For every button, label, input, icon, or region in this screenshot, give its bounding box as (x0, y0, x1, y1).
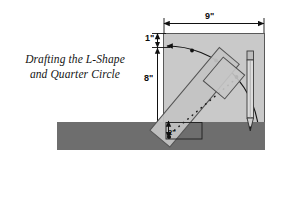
dimension-label-width: 9" (205, 11, 214, 21)
dimension-label-top-offset: 1" (145, 33, 154, 43)
caption-line-2: and Quarter Circle (8, 67, 142, 82)
pencil (247, 51, 254, 131)
dimension-label-height: 8" (144, 73, 153, 83)
diagram-svg (0, 0, 286, 222)
dimension-label-pivot-offset: 2" (168, 128, 176, 137)
caption-line-1: Drafting the L-Shape (8, 52, 142, 67)
figure-caption: Drafting the L-Shape and Quarter Circle (8, 52, 142, 82)
figure-canvas: Drafting the L-Shape and Quarter Circle … (0, 0, 286, 222)
